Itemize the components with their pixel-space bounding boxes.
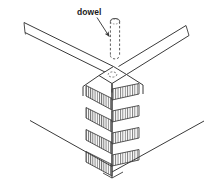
- dowel-callout: dowel: [77, 7, 109, 37]
- left-rail-front-upper: [83, 76, 99, 87]
- right-lower-panel-edge: [112, 121, 204, 172]
- left-top-rail: [24, 23, 114, 76]
- right-lower-panel: [112, 121, 204, 172]
- callout-leader-line: [97, 18, 109, 37]
- diagram-geometry: dowel: [24, 7, 204, 178]
- post-right-face-blocks: [112, 84, 139, 167]
- dowel-top-ellipse: [110, 19, 119, 24]
- post-left-face-blocks: [86, 86, 112, 177]
- right-top-rail: [119, 26, 190, 75]
- finger-block-right-2: [112, 106, 139, 123]
- finger-block-left-1: [86, 86, 112, 111]
- left-rail-top-near-edge: [25, 33, 112, 76]
- diagram-canvas: dowel: [0, 0, 207, 185]
- dowel-label: dowel: [77, 7, 102, 17]
- finger-block-left-2: [86, 108, 112, 133]
- post-top-face: [99, 67, 127, 84]
- finger-block-right-4: [112, 150, 139, 167]
- dowel-pin: [110, 19, 119, 59]
- right-rail-top-far-edge: [119, 26, 187, 67]
- post-bottom-right-edge: [112, 172, 123, 178]
- post-top-plateau: [99, 67, 127, 84]
- right-rail-front-upper: [127, 75, 144, 86]
- finger-block-left-3: [86, 130, 112, 155]
- right-rail-top-near-edge: [127, 36, 190, 75]
- right-rail-end-cap: [186, 26, 189, 36]
- finger-block-right-1: [112, 84, 139, 101]
- left-rail-top-far-edge: [24, 23, 114, 67]
- left-rail-end-cap: [24, 23, 25, 33]
- dowel-bottom-cap: [110, 56, 119, 59]
- finger-block-right-3: [112, 128, 139, 145]
- dowel-joint-diagram: dowel: [0, 0, 207, 185]
